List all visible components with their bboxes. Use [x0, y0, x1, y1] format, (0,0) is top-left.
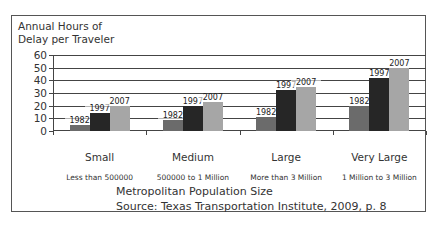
y-axis — [53, 55, 54, 131]
y-tick-label: 10 — [29, 113, 47, 123]
y-axis-title-line-2: Delay per Traveler — [18, 33, 114, 46]
x-axis-title-text: Metropolitan Population Size — [116, 184, 386, 199]
bar-1997 — [183, 106, 203, 131]
bar-label: 2007 — [105, 98, 135, 106]
x-tick-mark — [53, 131, 54, 135]
y-tick-label: 50 — [29, 63, 47, 73]
category-label: Medium — [148, 151, 238, 163]
y-tick-label: 0 — [29, 126, 47, 136]
source-note: Source: Texas Transportation Institute, … — [116, 199, 386, 214]
gridline — [53, 55, 426, 56]
bar-1982 — [163, 120, 183, 131]
bar-label: 2007 — [384, 60, 414, 68]
bar-2007 — [110, 106, 130, 131]
y-axis-title-line-1: Annual Hours of — [18, 20, 114, 33]
y-tick-label: 20 — [29, 101, 47, 111]
x-tick-mark — [146, 131, 147, 135]
x-tick-mark — [333, 131, 334, 135]
bar-2007 — [296, 87, 316, 131]
x-tick-mark — [240, 131, 241, 135]
y-tick-label: 40 — [29, 75, 47, 85]
bar-1997 — [90, 113, 110, 131]
bar-2007 — [389, 68, 409, 131]
category-label: Very Large — [334, 151, 424, 163]
plot-area: 0102030405060198219972007198219972007198… — [53, 55, 426, 131]
category-sublabel: More than 3 Million — [236, 173, 336, 182]
bar-label: 2007 — [291, 79, 321, 87]
bar-1982 — [256, 117, 276, 131]
category-sublabel: 500000 to 1 Million — [143, 173, 243, 182]
y-axis-title: Annual Hours of Delay per Traveler — [18, 20, 114, 46]
bar-1982 — [70, 125, 90, 131]
x-axis-title: Metropolitan Population Size Source: Tex… — [116, 184, 386, 214]
chart-frame: Annual Hours of Delay per Traveler 01020… — [11, 15, 426, 212]
bar-label: 2007 — [198, 94, 228, 102]
bar-1997 — [276, 90, 296, 131]
category-sublabel: Less than 500000 — [50, 173, 150, 182]
category-label: Small — [55, 151, 145, 163]
y-tick-label: 60 — [29, 50, 47, 60]
bar-2007 — [203, 102, 223, 131]
bar-1997 — [369, 78, 389, 131]
x-tick-mark — [426, 131, 427, 135]
bar-1982 — [349, 106, 369, 131]
y-tick-label: 30 — [29, 88, 47, 98]
category-label: Large — [241, 151, 331, 163]
category-sublabel: 1 Million to 3 Million — [329, 173, 429, 182]
